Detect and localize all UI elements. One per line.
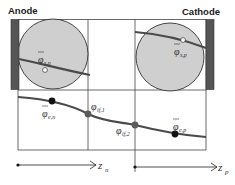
cathode-label: Cathode: [182, 6, 220, 17]
svg-text:if,1: if,1: [97, 107, 105, 113]
z-p-axis: [133, 163, 217, 171]
label-phi-e-n: φ e,n: [42, 106, 55, 120]
anode-solid-average-point: [43, 68, 48, 73]
svg-text:if,2: if,2: [122, 131, 130, 137]
z-p-label: z: [217, 161, 223, 173]
z-n-axis: [16, 161, 96, 169]
z-n-label: z: [97, 159, 103, 171]
interface-2-point: [132, 122, 139, 129]
svg-text:s,p: s,p: [180, 52, 187, 58]
z-p-subscript: p: [224, 168, 229, 176]
anode-particle: [18, 19, 88, 89]
cathode-current-collector: [206, 20, 214, 90]
label-phi-e-p: φ e,p: [173, 119, 186, 133]
svg-text:e,p: e,p: [179, 127, 186, 133]
electrode-potential-diagram: Anode Cathode φ s,n φ s,p φ e,n: [0, 0, 235, 185]
anode-current-collector: [11, 20, 19, 90]
anode-label: Anode: [8, 5, 38, 16]
z-n-subscript: n: [105, 166, 109, 174]
svg-text:s,n: s,n: [44, 60, 51, 66]
label-phi-if-1: φ if,1: [91, 101, 105, 113]
svg-text:e,n: e,n: [48, 114, 55, 120]
anode-electrolyte-average-point: [49, 98, 56, 105]
cathode-solid-average-point: [181, 38, 186, 43]
label-phi-if-2: φ if,2: [116, 125, 130, 137]
